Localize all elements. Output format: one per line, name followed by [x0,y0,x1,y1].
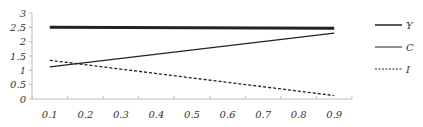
legend: YCI [375,20,414,75]
x-tick-label: 0.3 [113,109,129,120]
plot-lines [50,27,334,95]
legend-label-i: I [405,64,411,75]
x-tick-label: 0.5 [184,109,200,120]
x-tick-label: 0.2 [77,109,93,120]
y-tick-label: 0.5 [10,79,26,90]
y-tick-label: 2 [19,36,26,47]
y-tick-label: 2.5 [9,22,26,33]
y-tick-label: 1.5 [10,51,26,62]
y-tick-label: 0 [20,94,27,105]
y-tick-label: 1 [20,65,26,76]
legend-label-c: C [406,42,414,53]
x-tick-label: 0.4 [148,109,164,120]
x-tick-label: 0.8 [291,109,307,120]
y-tick-label: 3 [20,8,26,19]
x-tick-label: 0.9 [326,109,343,120]
x-tick-label: 0.7 [255,109,272,120]
legend-label-y: Y [406,20,414,31]
series-line-c [50,33,334,67]
x-tick-label: 0.6 [220,109,237,120]
series-line-y [50,27,334,28]
series-line-i [50,60,334,95]
axes: 00.511.522.530.10.20.30.40.50.60.70.80.9 [9,8,352,121]
x-tick-label: 0.1 [42,109,58,120]
line-chart: 00.511.522.530.10.20.30.40.50.60.70.80.9… [0,0,423,127]
